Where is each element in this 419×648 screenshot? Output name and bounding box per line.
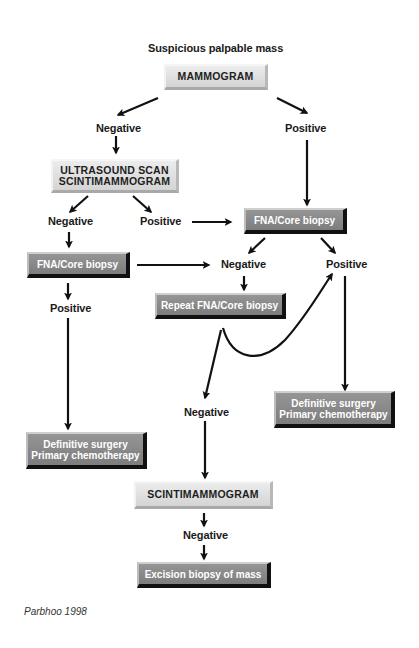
label-fna-right-positive: Positive: [326, 258, 367, 271]
arrow-ultrasound-to-positive: [133, 196, 151, 212]
credit-text: Parbhoo 1998: [24, 606, 87, 617]
arrow-ultrasound-to-negative: [70, 196, 88, 212]
node-mammogram: MAMMOGRAM: [164, 64, 268, 90]
node-repeat-fna-core-biopsy: Repeat FNA/Core biopsy: [155, 293, 286, 319]
node-scintimammogram: SCINTIMAMMOGRAM: [134, 481, 273, 509]
node-ultrasound-line2: SCINTIMAMMOGRAM: [59, 176, 171, 187]
node-ultrasound-scintimammogram: ULTRASOUND SCAN SCINTIMAMMOGRAM: [51, 159, 179, 193]
node-definitive-surgery-left: Definitive surgery Primary chemotherapy: [26, 432, 147, 469]
node-fna-core-biopsy-right: FNA/Core biopsy: [244, 208, 347, 234]
label-mammo-positive: Positive: [285, 122, 326, 135]
label-us-positive: Positive: [140, 215, 181, 228]
label-mammo-negative: Negative: [96, 122, 141, 135]
node-definitive-surgery-right: Definitive surgery Primary chemotherapy: [274, 391, 395, 428]
arrow-mammogram-to-positive: [277, 98, 307, 113]
arrow-fna-right-to-negative: [249, 238, 265, 253]
label-repeat-negative: Negative: [184, 406, 229, 419]
node-def-left-line2: Primary chemotherapy: [31, 450, 139, 461]
node-fna-left-text: FNA/Core biopsy: [37, 259, 118, 270]
node-excision-text: Excision biopsy of mass: [145, 569, 262, 580]
label-fna-left-positive: Positive: [50, 302, 91, 315]
label-scinti-negative: Negative: [183, 529, 228, 542]
node-repeat-text: Repeat FNA/Core biopsy: [161, 300, 278, 311]
node-def-right-line1: Definitive surgery: [291, 398, 375, 409]
node-def-left-line1: Definitive surgery: [43, 439, 127, 450]
node-mammogram-text: MAMMOGRAM: [178, 71, 254, 82]
arrow-repeat-to-negative: [205, 330, 221, 398]
arrow-mammogram-to-negative: [118, 98, 158, 115]
node-scinti-text: SCINTIMAMMOGRAM: [147, 489, 259, 500]
label-us-negative: Negative: [48, 215, 93, 228]
node-fna-right-text: FNA/Core biopsy: [254, 215, 335, 226]
start-label: Suspicious palpable mass: [148, 42, 283, 55]
node-fna-core-biopsy-left: FNA/Core biopsy: [27, 252, 130, 278]
arrow-fna-right-to-positive: [321, 238, 335, 253]
node-ultrasound-line1: ULTRASOUND SCAN: [60, 165, 168, 176]
flow-arrows: [0, 0, 419, 648]
label-fna-right-negative: Negative: [221, 258, 266, 271]
node-excision-biopsy: Excision biopsy of mass: [137, 562, 271, 588]
node-def-right-line2: Primary chemotherapy: [279, 409, 387, 420]
